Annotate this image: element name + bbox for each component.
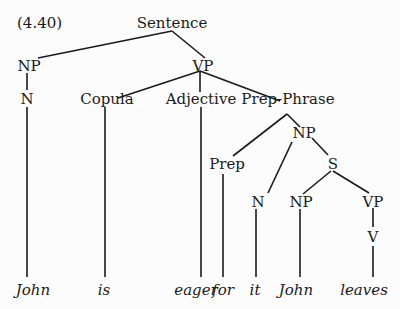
leaf-leaves: leaves xyxy=(340,283,388,298)
leaf-for: for xyxy=(212,283,234,298)
node-v: V xyxy=(368,230,379,245)
node-np-embedded: NP xyxy=(289,195,312,210)
leaf-is: is xyxy=(98,283,111,298)
leaf-it: it xyxy=(250,283,261,298)
node-n-object: N xyxy=(251,195,264,210)
syntax-tree-diagram: (4.40) Sentence NP VP N Copula Adjective… xyxy=(0,0,400,309)
node-adjective: Adjective xyxy=(166,92,237,107)
node-np-subject: NP xyxy=(17,59,40,74)
tree-edges xyxy=(0,0,400,309)
node-prep: Prep xyxy=(209,157,245,172)
node-vp-main: VP xyxy=(193,59,214,74)
leaf-john-embedded: John xyxy=(279,283,313,298)
node-s: S xyxy=(328,157,338,172)
node-np-object: NP xyxy=(292,126,315,141)
node-prep-phrase: Prep-Phrase xyxy=(241,92,334,107)
node-copula: Copula xyxy=(80,92,134,107)
node-n-subject: N xyxy=(20,92,33,107)
leaf-john-subject: John xyxy=(16,283,50,298)
node-sentence: Sentence xyxy=(137,16,208,31)
example-number: (4.40) xyxy=(17,16,62,31)
node-vp-embedded: VP xyxy=(363,195,384,210)
